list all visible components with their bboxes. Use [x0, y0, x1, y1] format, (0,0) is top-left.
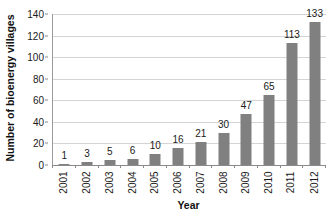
x-axis-tick-mark — [325, 165, 326, 168]
y-axis-tick-mark — [45, 143, 48, 144]
x-axis-tick-label-text: 2009 — [240, 171, 251, 193]
bar-group[interactable]: 113 — [281, 14, 304, 165]
x-axis-tick-label-text: 2011 — [285, 172, 296, 194]
x-axis-tick-mark — [98, 165, 99, 168]
x-axis-tick-label: 2009 — [234, 170, 257, 198]
y-axis-title-text: Number of bioenergy villages — [4, 14, 16, 161]
y-axis-tick-label: 80 — [33, 73, 44, 84]
x-axis-tick-label-text: 2004 — [126, 171, 137, 193]
x-axis-tick-mark — [302, 165, 303, 168]
bar-value-label: 113 — [284, 30, 300, 40]
x-axis-title: Year — [52, 199, 325, 211]
x-axis-tick-mark — [143, 165, 144, 168]
bar-group[interactable]: 21 — [190, 14, 213, 165]
x-axis-tick-mark — [189, 165, 190, 168]
bar-group[interactable]: 10 — [144, 14, 167, 165]
x-axis-tick-mark — [166, 165, 167, 168]
y-axis-tick-label: 0 — [38, 160, 44, 171]
x-axis-tick-label-text: 2008 — [217, 171, 228, 193]
x-axis-tick-label: 2005 — [143, 170, 166, 198]
x-axis-tick-label-text: 2003 — [103, 171, 114, 193]
x-axis-tick-mark — [75, 165, 76, 168]
bar-group[interactable]: 47 — [235, 14, 258, 165]
y-axis-tick-label: 60 — [33, 95, 44, 106]
x-axis-tick-label-text: 2006 — [172, 171, 183, 193]
y-axis-tick-label: 100 — [27, 52, 44, 63]
bar[interactable] — [150, 154, 161, 165]
x-axis-tick-mark — [211, 165, 212, 168]
y-axis-tick-mark — [45, 121, 48, 122]
x-axis-tick-label: 2008 — [211, 170, 234, 198]
x-axis-tick-label: 2011 — [280, 170, 303, 198]
plot-area: 1356101621304765113133 — [52, 14, 326, 165]
x-axis-tick-label-text: 2002 — [81, 171, 92, 193]
bar-value-label: 133 — [306, 9, 323, 19]
bar-value-label: 47 — [241, 101, 252, 111]
y-axis-tick-label: 40 — [33, 116, 44, 127]
x-axis-tick-label: 2001 — [52, 170, 75, 198]
bar-value-label: 30 — [218, 120, 229, 130]
bar[interactable] — [241, 114, 252, 165]
bar-value-label: 10 — [150, 141, 161, 151]
x-axis-tick-label: 2006 — [166, 170, 189, 198]
x-axis-tick-mark — [257, 165, 258, 168]
bar-value-label: 5 — [107, 147, 113, 157]
bar-group[interactable]: 30 — [212, 14, 235, 165]
y-axis-tick-mark — [45, 100, 48, 101]
y-axis-tick-mark — [45, 14, 48, 15]
bar-group[interactable]: 1 — [53, 14, 76, 165]
bar-group[interactable]: 3 — [76, 14, 99, 165]
bar[interactable] — [309, 22, 320, 165]
y-axis-tick-mark — [45, 78, 48, 79]
x-axis-tick-label: 2002 — [75, 170, 98, 198]
y-axis-tick-mark — [45, 57, 48, 58]
y-axis-tick-labels: 020406080100120140 — [20, 14, 48, 165]
bar-group[interactable]: 16 — [167, 14, 190, 165]
x-axis-tick-label: 2004 — [120, 170, 143, 198]
x-axis-tick-label: 2003 — [98, 170, 121, 198]
x-axis-tick-label-text: 2010 — [263, 171, 274, 193]
bar-value-label: 16 — [173, 135, 184, 145]
y-axis-tick-mark — [45, 165, 48, 166]
bar-value-label: 3 — [84, 149, 90, 159]
bar[interactable] — [264, 95, 275, 165]
x-axis-tick-label-text: 2001 — [58, 171, 69, 193]
x-axis-tick-mark — [120, 165, 121, 168]
bar-group[interactable]: 133 — [303, 14, 326, 165]
bars-layer: 1356101621304765113133 — [53, 14, 326, 165]
bar[interactable] — [195, 142, 206, 165]
bar-value-label: 21 — [195, 129, 206, 139]
y-axis-title: Number of bioenergy villages — [0, 0, 20, 175]
x-axis-tick-mark — [52, 165, 53, 168]
x-axis-tick-label: 2012 — [302, 170, 325, 198]
x-axis-tick-label: 2010 — [257, 170, 280, 198]
x-axis-tick-label-text: 2007 — [194, 171, 205, 193]
y-axis-tick-label: 120 — [27, 30, 44, 41]
bar-group[interactable]: 65 — [258, 14, 281, 165]
x-axis-tick-mark — [234, 165, 235, 168]
bar-value-label: 1 — [62, 151, 68, 161]
bar-value-label: 6 — [130, 146, 136, 156]
bar[interactable] — [173, 148, 184, 165]
x-axis-tick-labels: 2001200220032004200520062007200820092010… — [52, 170, 325, 198]
y-axis-tick-label: 140 — [27, 9, 44, 20]
bar-value-label: 65 — [264, 82, 275, 92]
y-axis-tick-mark — [45, 35, 48, 36]
y-axis-tick-label: 20 — [33, 138, 44, 149]
x-axis-tick-label-text: 2012 — [308, 171, 319, 193]
x-axis-tick-label: 2007 — [189, 170, 212, 198]
bar-group[interactable]: 6 — [121, 14, 144, 165]
x-axis-tick-label-text: 2005 — [149, 171, 160, 193]
bar[interactable] — [286, 43, 297, 165]
x-axis-tick-mark — [280, 165, 281, 168]
bar[interactable] — [218, 133, 229, 165]
bar-group[interactable]: 5 — [99, 14, 122, 165]
bar-chart: Number of bioenergy villages 02040608010… — [0, 0, 331, 218]
